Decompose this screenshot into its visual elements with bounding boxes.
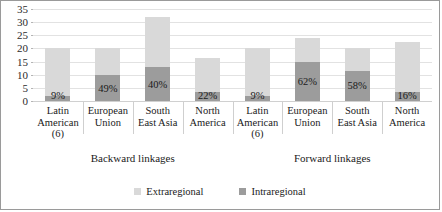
bar-segment-extraregional (395, 42, 420, 92)
category-label-line: Union (83, 117, 133, 129)
legend-swatch-icon (134, 188, 141, 195)
category-label-line: American (33, 117, 83, 129)
category-label-line: European (83, 105, 133, 117)
bar-percent-label: 9% (245, 90, 270, 101)
bar-4: 22% (195, 58, 220, 101)
bar-1: 9% (45, 48, 70, 101)
bar-percent-label: 22% (195, 90, 220, 101)
y-axis-tick-5: 5 (23, 83, 29, 93)
legend-label: Intraregional (251, 186, 305, 197)
bar-5: 9% (245, 48, 270, 101)
category-axis: LatinAmerican(6)EuropeanUnionSouthEast A… (33, 102, 432, 148)
legend-item-1[interactable]: Extraregional (134, 186, 203, 197)
category-label-line: European (282, 105, 332, 117)
bar-segment-extraregional (195, 58, 220, 92)
category-label-line: (6) (33, 128, 83, 140)
bar-percent-label: 40% (145, 79, 170, 90)
category-label-line: American (233, 117, 283, 129)
group-label-1: Backward linkages (33, 151, 233, 167)
bar-percent-label: 49% (95, 83, 120, 94)
legend-swatch-icon (239, 188, 246, 195)
category-label-2-1: LatinAmerican(6) (233, 102, 283, 148)
bar-percent-label: 9% (45, 90, 70, 101)
plot-area: 9%49%40%22%9%62%58%16% (33, 9, 432, 101)
category-label-line: East Asia (133, 117, 183, 129)
category-label-1-4: NorthAmerica (183, 102, 233, 148)
bar-percent-label: 58% (345, 80, 370, 91)
y-axis-tick-20: 20 (17, 43, 28, 53)
chart-figure: 05101520253035 9%49%40%22%9%62%58%16% La… (0, 0, 440, 210)
bar-percent-label: 16% (395, 90, 420, 101)
category-label-line: Union (282, 117, 332, 129)
y-axis-tick-10: 10 (17, 70, 28, 80)
category-label-2-3: SouthEast Asia (332, 102, 382, 148)
category-label-line: America (382, 117, 432, 129)
bar-3: 40% (145, 17, 170, 101)
bar-7: 58% (345, 48, 370, 101)
category-label-2-4: NorthAmerica (382, 102, 432, 148)
category-group-2: LatinAmerican(6)EuropeanUnionSouthEast A… (233, 102, 433, 148)
legend-label: Extraregional (146, 186, 203, 197)
legend-item-2[interactable]: Intraregional (239, 186, 305, 197)
category-label-1-3: SouthEast Asia (133, 102, 183, 148)
category-label-line: North (183, 105, 233, 117)
bar-segment-extraregional (295, 38, 320, 62)
bar-6: 62% (295, 38, 320, 101)
bar-2: 49% (95, 48, 120, 101)
category-label-line: (6) (233, 128, 283, 140)
category-label-line: East Asia (332, 117, 382, 129)
category-label-2-2: EuropeanUnion (282, 102, 332, 148)
y-axis-tick-0: 0 (23, 96, 29, 106)
category-label-line: Latin (233, 105, 283, 117)
group-axis: Backward linkagesForward linkages (33, 151, 432, 167)
y-axis-labels: 05101520253035 (1, 9, 31, 101)
bar-percent-label: 62% (295, 76, 320, 87)
bar-8: 16% (395, 42, 420, 101)
bar-segment-extraregional (145, 17, 170, 67)
y-axis-tick-35: 35 (17, 4, 28, 14)
chart-legend: ExtraregionalIntraregional (1, 186, 439, 197)
y-axis-tick-15: 15 (17, 57, 28, 67)
category-label-line: America (183, 117, 233, 129)
y-axis-tick-25: 25 (17, 30, 28, 40)
category-label-line: South (332, 105, 382, 117)
category-label-line: Latin (33, 105, 83, 117)
category-group-1: LatinAmerican(6)EuropeanUnionSouthEast A… (33, 102, 233, 148)
group-label-2: Forward linkages (233, 151, 433, 167)
bar-segment-extraregional (95, 48, 120, 75)
category-label-1-1: LatinAmerican(6) (33, 102, 83, 148)
bar-segment-extraregional (345, 48, 370, 70)
category-label-line: North (382, 105, 432, 117)
category-label-line: South (133, 105, 183, 117)
category-label-1-2: EuropeanUnion (83, 102, 133, 148)
y-axis-tick-30: 30 (17, 17, 28, 27)
bar-series: 9%49%40%22%9%62%58%16% (33, 9, 432, 101)
